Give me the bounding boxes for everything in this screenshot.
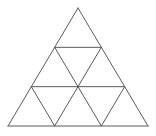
left-parallel-line bbox=[8, 8, 78, 126]
left-parallel-line bbox=[101, 87, 124, 126]
subdivided-triangle bbox=[0, 0, 156, 136]
right-parallel-line bbox=[31, 87, 54, 126]
triangle-lines bbox=[8, 8, 148, 126]
right-parallel-line bbox=[78, 8, 148, 126]
diagram-canvas bbox=[0, 0, 156, 136]
